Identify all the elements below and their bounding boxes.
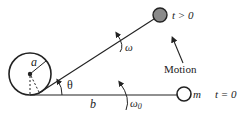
label-t-initial: t = 0 xyxy=(215,88,237,100)
tether-later xyxy=(39,19,154,93)
omega-arrow-icon xyxy=(117,34,122,52)
label-radius: a xyxy=(31,55,37,69)
radius-dashed-tangent xyxy=(31,76,39,92)
label-motion: Motion xyxy=(164,63,197,75)
label-t-later: t > 0 xyxy=(172,9,194,21)
mass-later xyxy=(153,8,167,22)
label-theta: θ xyxy=(67,78,73,92)
omega0-arrow-icon xyxy=(120,83,128,110)
label-mass: m xyxy=(193,88,201,100)
label-length: b xyxy=(90,97,96,111)
label-omega: ω xyxy=(125,41,133,53)
theta-arc-icon xyxy=(58,81,62,95)
label-omega0: ω0 xyxy=(130,97,142,111)
motion-arrow-icon xyxy=(173,39,183,63)
mass-initial xyxy=(177,87,191,101)
tether-diagram: a θ b ω ω0 Motion m t = 0 t > 0 xyxy=(0,0,246,124)
